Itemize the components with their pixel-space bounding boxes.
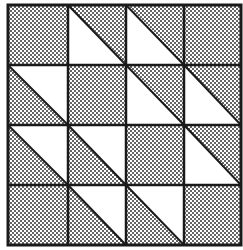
quilt-cell-1-0-bl: [8, 65, 68, 125]
quilt-cell-1-1-d: [68, 65, 126, 125]
quilt-cell-2-1-bl: [68, 125, 126, 185]
quilt-cell-0-1-tr: [68, 5, 126, 65]
quilt-cell-3-3-d: [184, 185, 241, 245]
quilt-cell-0-0-d: [8, 5, 68, 65]
quilt-cell-1-2-tr: [126, 65, 184, 125]
quilt-cell-1-3-tr: [184, 65, 241, 125]
quilt-cell-2-0-bl: [8, 125, 68, 185]
quilt-cell-3-1-bl: [68, 185, 126, 245]
quilt-block-diagram: [0, 0, 243, 250]
quilt-cell-0-2-tr: [126, 5, 184, 65]
quilt-cell-0-3-d: [184, 5, 241, 65]
quilt-cell-3-0-d: [8, 185, 68, 245]
quilt-cell-3-2-bl: [126, 185, 184, 245]
quilt-cell-2-2-d: [126, 125, 184, 185]
quilt-cell-2-3-tr: [184, 125, 241, 185]
